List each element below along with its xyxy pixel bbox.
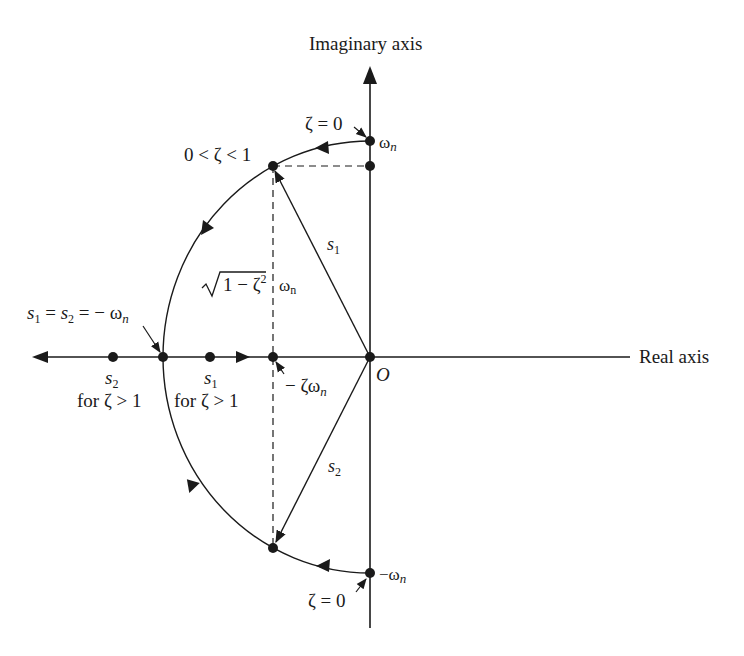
pole-imag-projection [365,161,375,171]
zeta-zero-top-label: ζ = 0 [305,113,343,134]
overdamped-s1-label: s1 [204,367,217,391]
pole-omega-n-top [365,136,375,146]
overdamped-s1-condition: for ζ > 1 [174,390,239,411]
s-plane-diagram: Imaginary axis Real axis O ζ = 0 ωn 0 < … [0,0,744,656]
pole-neg-zeta-omega [268,352,278,362]
real-axis-direction-arrow-icon [236,351,250,363]
overdamped-s2-condition: for ζ > 1 [77,390,142,411]
origin-label: O [376,364,390,385]
pole-critical [158,352,168,362]
pointer-zeta-zero-bottom [356,579,366,592]
pole-s2-overdamped [108,352,118,362]
pointer-critical [143,326,160,352]
imaginary-axis-arrow-icon [363,66,377,84]
omega-n-top-label: ωn [379,133,397,154]
pole-omega-n-bottom [365,568,375,578]
vector-s1 [275,171,370,357]
real-axis-label: Real axis [639,346,709,367]
arc-arrow-icon [316,559,330,572]
pole-underdamped-lower [268,543,278,553]
underdamped-label: 0 < ζ < 1 [184,144,251,165]
pole-s1-overdamped [205,352,215,362]
s1-vector-label: s1 [327,234,340,257]
real-axis-left-arrow-icon [32,351,48,363]
neg-zeta-omega-label: − ζωn [285,375,327,399]
critical-damping-label: s1 = s2 = − ωn [27,302,129,326]
origin-dot [365,352,375,362]
overdamped-s2-label: s2 [105,367,118,391]
pointer-zeta-zero-top [354,127,366,137]
s2-vector-label: s2 [328,456,341,479]
svg-text:1 − ζ2: 1 − ζ2 [223,272,267,295]
omega-n-bottom-label: −ωn [379,565,406,586]
pointer-neg-zeta-omega [276,362,284,374]
imaginary-axis-label: Imaginary axis [309,33,422,54]
pole-underdamped-upper [268,161,278,171]
damped-frequency-label: 1 − ζ2 ωn [202,272,296,297]
arc-arrow-icon [315,141,329,154]
zeta-zero-bottom-label: ζ = 0 [308,590,346,611]
svg-text:ωn: ωn [279,276,296,297]
